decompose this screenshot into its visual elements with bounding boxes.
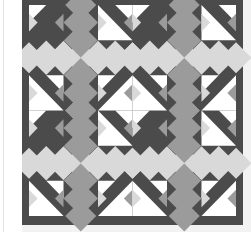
quilt-pattern-graphic bbox=[22, 0, 251, 232]
left-edge-line bbox=[3, 0, 4, 232]
quilt-image bbox=[22, 0, 251, 232]
